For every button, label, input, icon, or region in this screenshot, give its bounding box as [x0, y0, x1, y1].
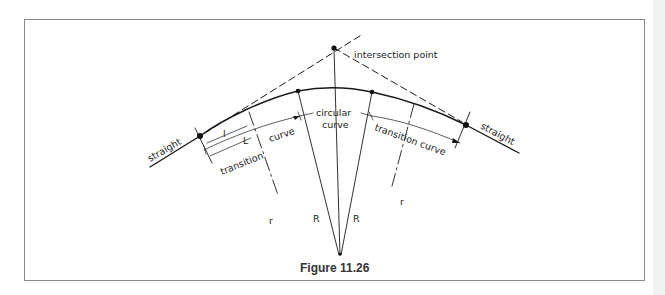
circular-end-dot [370, 90, 375, 95]
transition-curve-diagram: intersection point straight straight cir… [0, 0, 665, 295]
dim-l [207, 126, 247, 143]
length-l-label: l [223, 128, 226, 139]
circular-curve-label-line2: curve [322, 119, 349, 130]
radius-R-left-label: R [313, 213, 320, 224]
transition-right-label: transition curve [373, 122, 447, 158]
tangent-point-right-dot [463, 122, 469, 128]
length-L-label: L [243, 135, 249, 146]
intersection-point-label: intersection point [354, 49, 438, 60]
arrowhead [293, 116, 300, 120]
tangent-point-left-dot [197, 133, 203, 139]
transition-left-label-word1: transition [219, 150, 265, 177]
radius-r-right-label: r [400, 196, 404, 207]
radius-r-left-label: r [269, 215, 273, 226]
intersection-point-dot [331, 45, 336, 50]
radius-R-right-label: R [353, 213, 360, 224]
ip-to-center-line [334, 48, 340, 255]
figure-caption: Figure 11.26 [300, 261, 370, 275]
center-dot [339, 253, 342, 256]
transition-left-label-word2: curve [267, 125, 296, 144]
straight-right-label: straight [479, 120, 517, 147]
circular-start-dot [296, 89, 301, 94]
circular-curve-label-line1: circular [316, 107, 351, 118]
